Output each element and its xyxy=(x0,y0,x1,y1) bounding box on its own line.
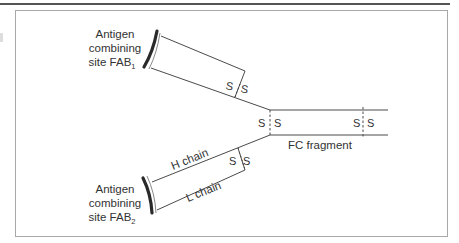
l-chain-label: L chain xyxy=(184,179,222,204)
svg-text:Antigen: Antigen xyxy=(95,28,134,40)
antibody-structure-figure: S S S S S S FC fragment S S H chain xyxy=(0,0,459,243)
fc-fragment-label: FC fragment xyxy=(288,139,353,151)
fab2-ss-left: S xyxy=(229,155,236,167)
figure-frame xyxy=(16,11,448,237)
fab1-label: Antigen combining site FAB1 xyxy=(89,28,142,71)
fab1-ss-left: S xyxy=(225,79,234,92)
svg-text:combining: combining xyxy=(89,42,141,54)
fab2-arm xyxy=(152,135,270,210)
fab1-ss-right: S xyxy=(240,82,249,95)
fab2-antigen-site-arc-icon xyxy=(143,178,152,213)
fc-ss-right: S xyxy=(367,117,374,129)
svg-text:site FAB2: site FAB2 xyxy=(89,211,136,226)
hinge-ss-left: S xyxy=(258,117,265,129)
svg-text:combining: combining xyxy=(89,197,141,209)
fab1-antigen-site-arc-icon xyxy=(144,31,157,67)
hinge-ss-right: S xyxy=(274,117,281,129)
fab2-label: Antigen combining site FAB2 xyxy=(89,183,142,226)
h-chain-label: H chain xyxy=(169,146,210,172)
fc-ss-left: S xyxy=(353,117,360,129)
svg-text:site FAB1: site FAB1 xyxy=(89,56,136,71)
clipped-edge-mark xyxy=(0,33,3,42)
fab2-ss-right: S xyxy=(243,155,250,167)
svg-text:Antigen: Antigen xyxy=(95,183,134,195)
fab1-arm xyxy=(151,36,270,110)
